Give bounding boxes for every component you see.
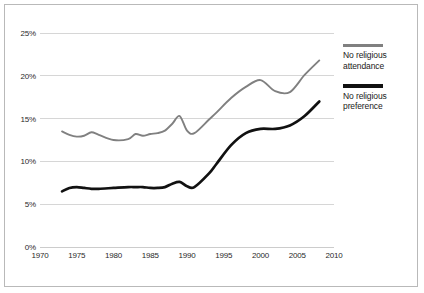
legend-item-no-religious-preference[interactable]: No religious preference	[343, 84, 421, 112]
legend-item-no-religious-attendance[interactable]: No religious attendance	[343, 44, 421, 71]
legend-label-line2: attendance	[343, 61, 384, 71]
x-axis-tick-label: 1990	[167, 251, 207, 260]
legend-label-line1: No religious	[343, 50, 387, 60]
x-axis-tick-label: 1970	[20, 251, 60, 260]
x-axis-tick-label: 1995	[204, 251, 244, 260]
x-axis-tick-label: 2005	[277, 251, 317, 260]
y-axis-tick-label: 5%	[10, 200, 36, 209]
gridlines	[40, 33, 334, 247]
legend-swatch-no-religious-attendance	[343, 44, 383, 47]
series-line-no-religious-preference	[62, 101, 319, 191]
legend-label-line1: No religious	[343, 91, 387, 101]
data-series-group	[62, 60, 319, 191]
x-axis-labels: 197019751980198519901995200020052010	[0, 251, 424, 265]
chart-legend: No religious attendance No religious pre…	[343, 44, 421, 125]
x-axis-tick-label: 2010	[314, 251, 354, 260]
legend-label-no-religious-attendance: No religious attendance	[343, 50, 421, 71]
legend-label-line2: preference	[343, 101, 383, 111]
y-axis-tick-label: 15%	[10, 114, 36, 123]
x-axis-tick-label: 1980	[94, 251, 134, 260]
x-axis-tick-label: 2000	[241, 251, 281, 260]
legend-swatch-no-religious-preference	[343, 84, 383, 88]
x-axis-tick-label: 1985	[130, 251, 170, 260]
y-axis-labels: 25%20%15%10%5%0%	[10, 0, 36, 293]
legend-label-no-religious-preference: No religious preference	[343, 91, 421, 112]
y-axis-tick-label: 20%	[10, 71, 36, 80]
x-axis-tick-label: 1975	[57, 251, 97, 260]
y-axis-tick-label: 25%	[10, 29, 36, 38]
y-axis-tick-label: 10%	[10, 157, 36, 166]
line-chart: 25%20%15%10%5%0% 19701975198019851990199…	[0, 0, 424, 293]
